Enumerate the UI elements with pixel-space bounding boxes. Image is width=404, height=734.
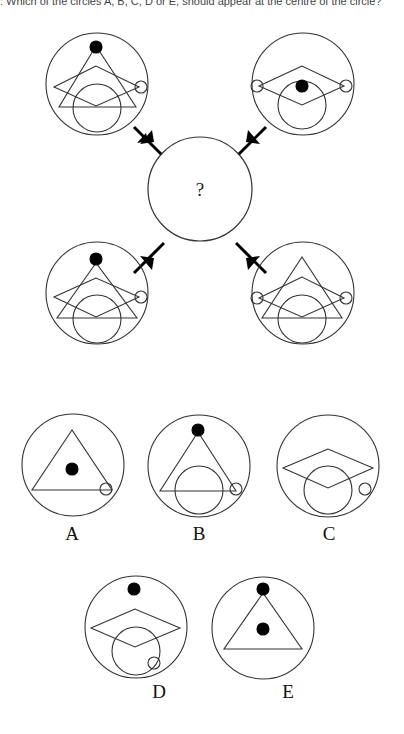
option-b[interactable] xyxy=(148,415,250,517)
option-c-label: C xyxy=(323,523,336,544)
black-dot-icon xyxy=(90,41,102,53)
outer-circle-top-right xyxy=(251,33,354,135)
black-dot-icon xyxy=(296,80,308,92)
connector-bottom-right xyxy=(236,243,266,273)
option-e-label: E xyxy=(282,681,294,702)
black-dot-icon xyxy=(128,583,140,595)
connector-top-left xyxy=(134,127,164,157)
option-a[interactable] xyxy=(22,414,124,516)
option-e[interactable] xyxy=(212,577,314,679)
option-b-label: B xyxy=(193,523,206,544)
outer-circle-bottom-right xyxy=(251,242,354,344)
black-dot-icon xyxy=(257,623,269,635)
black-dot-icon xyxy=(66,463,78,475)
center-circle: ? xyxy=(148,137,252,241)
option-c[interactable] xyxy=(277,415,379,517)
outer-circle-top-left xyxy=(46,33,148,135)
black-dot-icon xyxy=(192,424,204,436)
connector-bottom-left xyxy=(134,243,164,273)
puzzle-diagram: ? A xyxy=(0,0,404,734)
question-mark: ? xyxy=(196,179,204,200)
connector-top-right xyxy=(236,127,266,157)
option-d[interactable] xyxy=(85,576,187,678)
black-dot-icon xyxy=(257,583,269,595)
outer-circle-bottom-left xyxy=(46,242,148,344)
black-dot-icon xyxy=(90,253,102,265)
option-a-label: A xyxy=(65,523,79,544)
option-d-label: D xyxy=(152,681,166,702)
